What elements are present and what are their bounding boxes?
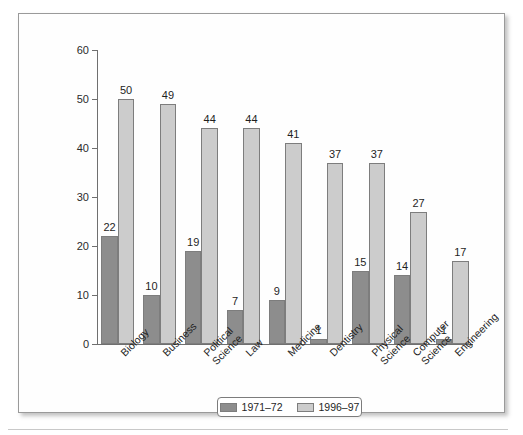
bar-value-label: 17 [454,246,466,258]
y-axis-tick-mark [92,344,97,345]
bar-series2 [243,128,260,344]
bar-series1 [101,236,118,344]
bar-value-label: 37 [371,148,383,160]
bar-series1 [269,300,286,344]
legend-label-series1: 1971–72 [242,401,283,413]
bar-series2 [327,163,344,344]
y-axis-tick-label: 60 [77,44,89,56]
y-axis-tick-label: 10 [77,289,89,301]
bar-series2 [285,143,302,344]
y-axis-tick-mark [92,197,97,198]
bar-value-label: 44 [245,113,257,125]
y-axis-tick-mark [92,246,97,247]
bar-series2 [118,99,135,344]
bar-value-label: 7 [232,295,238,307]
bar-value-label: 41 [287,128,299,140]
legend-label-series2: 1996–97 [319,401,360,413]
y-axis-tick-mark [92,50,97,51]
bar-value-label: 44 [204,113,216,125]
bar-value-label: 15 [354,256,366,268]
bar-series2 [160,104,177,344]
light-gray-swatch-icon [297,403,314,412]
bar-value-label: 14 [396,260,408,272]
y-axis-line [97,50,98,344]
y-axis-tick-label: 0 [83,338,89,350]
bar-series2 [410,212,427,344]
y-axis-tick-label: 20 [77,240,89,252]
dark-gray-swatch-icon [220,403,237,412]
bar-value-label: 49 [162,89,174,101]
bar-chart-plot-area: 0102030405060 22501049194474494113715371… [97,50,473,344]
page-divider-rule [8,429,508,430]
y-axis-tick-label: 40 [77,142,89,154]
figure-frame: 0102030405060 22501049194474494113715371… [18,13,505,413]
y-axis-tick-mark [92,148,97,149]
chart-legend: 1971–72 1996–97 [217,397,362,417]
y-axis-tick-label: 50 [77,93,89,105]
y-axis-tick-mark [92,295,97,296]
page-canvas: 0102030405060 22501049194474494113715371… [0,0,523,435]
legend-item-series1: 1971–72 [220,401,283,413]
bar-series2 [201,128,218,344]
legend-item-series2: 1996–97 [297,401,360,413]
y-axis-tick-mark [92,99,97,100]
bar-series1 [310,339,327,344]
bar-value-label: 50 [120,84,132,96]
bar-value-label: 9 [274,285,280,297]
y-axis-tick-label: 30 [77,191,89,203]
bar-value-label: 37 [329,148,341,160]
bar-value-label: 10 [145,280,157,292]
bar-value-label: 22 [104,221,116,233]
bar-series2 [369,163,386,344]
bar-value-label: 19 [187,236,199,248]
bar-value-label: 27 [412,197,424,209]
